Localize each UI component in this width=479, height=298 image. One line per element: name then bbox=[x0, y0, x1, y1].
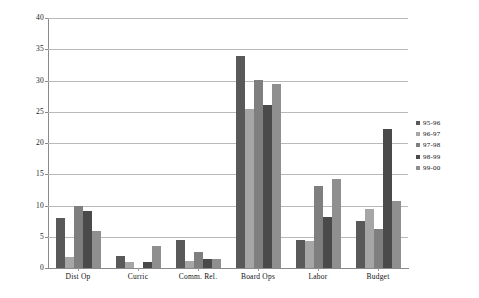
x-tick-mark bbox=[198, 268, 199, 271]
bar[interactable] bbox=[83, 211, 92, 268]
y-axis-ticks: 0510152025303540 bbox=[0, 18, 44, 268]
bar[interactable] bbox=[332, 179, 341, 268]
bar[interactable] bbox=[356, 221, 365, 268]
legend-item[interactable]: 99-00 bbox=[416, 164, 440, 172]
bar-group: Comm. Rel. bbox=[168, 18, 228, 268]
y-tick-label: 5 bbox=[4, 232, 44, 241]
bar[interactable] bbox=[254, 80, 263, 268]
y-tick-label: 40 bbox=[4, 13, 44, 22]
x-tick-label: Dist Op bbox=[48, 272, 108, 281]
legend-item[interactable]: 97-98 bbox=[416, 141, 440, 149]
legend-swatch-icon bbox=[416, 155, 420, 159]
bar[interactable] bbox=[125, 262, 134, 268]
x-tick-label: Curric bbox=[108, 272, 168, 281]
legend-label: 98-99 bbox=[423, 153, 440, 161]
legend-label: 96-97 bbox=[423, 130, 440, 138]
bars bbox=[176, 18, 221, 268]
legend-label: 97-98 bbox=[423, 141, 440, 149]
bar-group: Board Ops bbox=[228, 18, 288, 268]
bar[interactable] bbox=[74, 206, 83, 269]
x-tick-label: Comm. Rel. bbox=[168, 272, 228, 281]
bar[interactable] bbox=[323, 217, 332, 268]
y-tick-label: 30 bbox=[4, 76, 44, 85]
bar[interactable] bbox=[296, 240, 305, 268]
bar[interactable] bbox=[383, 129, 392, 268]
bars bbox=[116, 18, 161, 268]
bars bbox=[296, 18, 341, 268]
bar[interactable] bbox=[185, 261, 194, 269]
bar-group: Budget bbox=[348, 18, 408, 268]
legend-swatch-icon bbox=[416, 166, 420, 170]
legend-item[interactable]: 96-97 bbox=[416, 130, 440, 138]
legend-label: 95-96 bbox=[423, 119, 440, 127]
bar-group: Labor bbox=[288, 18, 348, 268]
bar-group: Dist Op bbox=[48, 18, 108, 268]
bar[interactable] bbox=[236, 56, 245, 269]
bar[interactable] bbox=[272, 84, 281, 268]
bar[interactable] bbox=[212, 259, 221, 268]
bar[interactable] bbox=[314, 186, 323, 269]
x-tick-mark bbox=[378, 268, 379, 271]
x-tick-label: Budget bbox=[348, 272, 408, 281]
plot-area: Dist OpCurricComm. Rel.Board OpsLaborBud… bbox=[48, 18, 408, 268]
bar[interactable] bbox=[194, 252, 203, 268]
x-tick-label: Labor bbox=[288, 272, 348, 281]
bar[interactable] bbox=[92, 231, 101, 269]
y-tick-label: 25 bbox=[4, 107, 44, 116]
y-tick-label: 0 bbox=[4, 263, 44, 272]
bar-chart: 0510152025303540 Dist OpCurricComm. Rel.… bbox=[0, 0, 479, 298]
bar[interactable] bbox=[116, 256, 125, 269]
x-axis-line bbox=[48, 268, 409, 269]
bar[interactable] bbox=[392, 201, 401, 269]
bar[interactable] bbox=[65, 257, 74, 268]
bar[interactable] bbox=[176, 240, 185, 268]
y-tick-label: 10 bbox=[4, 201, 44, 210]
bar[interactable] bbox=[203, 259, 212, 268]
bar-groups: Dist OpCurricComm. Rel.Board OpsLaborBud… bbox=[48, 18, 408, 268]
bar[interactable] bbox=[56, 218, 65, 268]
bars bbox=[356, 18, 401, 268]
bar[interactable] bbox=[305, 241, 314, 268]
bar-group: Curric bbox=[108, 18, 168, 268]
chart-legend: 95-9696-9797-9898-9999-00 bbox=[416, 119, 440, 172]
bar[interactable] bbox=[245, 109, 254, 268]
y-tick-label: 20 bbox=[4, 138, 44, 147]
y-tick-label: 15 bbox=[4, 169, 44, 178]
bar[interactable] bbox=[365, 209, 374, 268]
x-tick-label: Board Ops bbox=[228, 272, 288, 281]
legend-swatch-icon bbox=[416, 121, 420, 125]
legend-swatch-icon bbox=[416, 132, 420, 136]
bar[interactable] bbox=[152, 246, 161, 268]
x-tick-mark bbox=[78, 268, 79, 271]
x-tick-mark bbox=[318, 268, 319, 271]
x-tick-mark bbox=[258, 268, 259, 271]
x-tick-mark bbox=[138, 268, 139, 271]
bars bbox=[236, 18, 281, 268]
legend-item[interactable]: 98-99 bbox=[416, 153, 440, 161]
bar[interactable] bbox=[143, 262, 152, 268]
legend-swatch-icon bbox=[416, 143, 420, 147]
bar[interactable] bbox=[263, 105, 272, 268]
legend-label: 99-00 bbox=[423, 164, 440, 172]
legend-item[interactable]: 95-96 bbox=[416, 119, 440, 127]
bar[interactable] bbox=[374, 229, 383, 268]
y-tick-label: 35 bbox=[4, 44, 44, 53]
bars bbox=[56, 18, 101, 268]
